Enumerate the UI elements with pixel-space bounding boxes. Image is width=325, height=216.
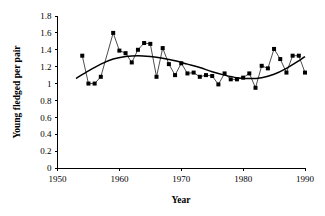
data-point-marker xyxy=(117,49,121,53)
x-tick-label: 1990 xyxy=(296,174,315,184)
data-point-marker xyxy=(111,31,115,35)
x-tick-label: 1960 xyxy=(110,174,129,184)
x-axis-tick-labels: 19501960197019801990 xyxy=(49,174,315,184)
x-axis-title: Year xyxy=(172,195,192,205)
data-point-marker xyxy=(136,48,140,52)
y-tick-label: 1 xyxy=(47,79,52,89)
data-point-marker xyxy=(161,46,165,50)
data-point-marker xyxy=(173,73,177,77)
data-point-marker xyxy=(247,71,251,75)
data-point-marker xyxy=(223,71,227,75)
data-point-marker xyxy=(124,51,128,55)
chart-plot: 00.20.40.60.811.21.41.61.8 1950196019701… xyxy=(0,0,325,216)
y-tick-label: 1.6 xyxy=(40,28,52,38)
y-tick-label: 1.8 xyxy=(40,11,52,21)
data-point-marker xyxy=(216,82,220,86)
data-point-marker xyxy=(142,41,146,45)
y-tick-label: 1.4 xyxy=(40,45,52,55)
data-point-marker xyxy=(99,75,103,79)
data-point-marker xyxy=(241,76,245,80)
data-point-marker xyxy=(185,71,189,75)
data-point-marker xyxy=(179,61,183,65)
y-tick-label: 0.4 xyxy=(40,129,52,139)
data-point-marker xyxy=(284,71,288,75)
y-axis-title: Young fledged per pair xyxy=(12,45,22,139)
data-point-marker xyxy=(93,82,97,86)
x-tick-label: 1950 xyxy=(49,174,68,184)
data-point-marker xyxy=(204,73,208,77)
data-point-marker xyxy=(260,64,264,68)
data-point-marker xyxy=(235,77,239,81)
data-point-markers xyxy=(80,31,307,90)
data-point-marker xyxy=(130,60,134,64)
data-point-marker xyxy=(192,71,196,75)
x-tick-label: 1970 xyxy=(172,174,191,184)
y-tick-label: 0.2 xyxy=(40,146,51,156)
chart-container: 00.20.40.60.811.21.41.61.8 1950196019701… xyxy=(0,0,325,216)
data-point-marker xyxy=(229,77,233,81)
data-point-marker xyxy=(80,54,84,58)
data-point-marker xyxy=(278,57,282,61)
data-point-marker xyxy=(155,75,159,79)
x-tick-label: 1980 xyxy=(234,174,253,184)
axes xyxy=(58,16,306,169)
data-point-marker xyxy=(167,62,171,66)
data-point-marker xyxy=(210,74,214,78)
data-point-marker xyxy=(86,82,90,86)
y-tick-label: 0 xyxy=(47,163,52,173)
data-point-marker xyxy=(266,66,270,70)
data-point-marker xyxy=(291,54,295,58)
data-point-marker xyxy=(297,54,301,58)
data-point-marker xyxy=(303,71,307,75)
y-tick-label: 0.6 xyxy=(40,113,52,123)
data-point-marker xyxy=(148,42,152,46)
data-series-line xyxy=(82,33,305,88)
data-point-marker xyxy=(254,86,258,90)
data-point-marker xyxy=(272,47,276,51)
y-tick-label: 0.8 xyxy=(40,96,52,106)
y-axis-tick-labels: 00.20.40.60.811.21.41.61.8 xyxy=(40,11,52,173)
data-point-marker xyxy=(198,75,202,79)
y-tick-label: 1.2 xyxy=(40,62,51,72)
